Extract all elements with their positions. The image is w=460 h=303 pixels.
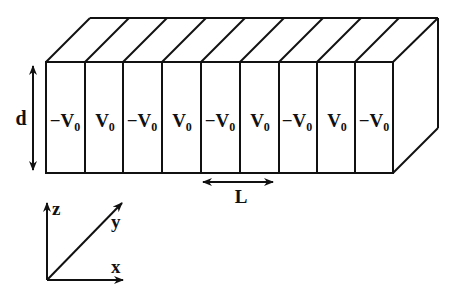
stripe-labels: −V0 V0 −V0 V0 −V0 V0 −V0 V0 −V0 bbox=[50, 110, 390, 134]
y-axis-label: y bbox=[111, 211, 121, 232]
stripe-label: V0 bbox=[327, 110, 347, 134]
x-axis-label: x bbox=[111, 256, 121, 277]
period-label: L bbox=[235, 186, 248, 207]
stripe-label: −V0 bbox=[127, 110, 158, 134]
thickness-label: d bbox=[15, 107, 26, 129]
stripe-label: V0 bbox=[95, 110, 115, 134]
stripe-label: −V0 bbox=[282, 110, 313, 134]
slab bbox=[46, 18, 438, 173]
top-face-diagonals bbox=[46, 18, 438, 62]
stripe-label: V0 bbox=[250, 110, 270, 134]
stripe-label: −V0 bbox=[359, 110, 390, 134]
z-axis-label: z bbox=[52, 198, 61, 219]
stripe-label: −V0 bbox=[205, 110, 236, 134]
bottom-right-diagonal bbox=[393, 128, 438, 173]
stripe-label: −V0 bbox=[50, 110, 81, 134]
stripe-label: V0 bbox=[172, 110, 192, 134]
electrode-diagram: −V0 V0 −V0 V0 −V0 V0 −V0 V0 −V0 d L z y … bbox=[0, 0, 460, 303]
